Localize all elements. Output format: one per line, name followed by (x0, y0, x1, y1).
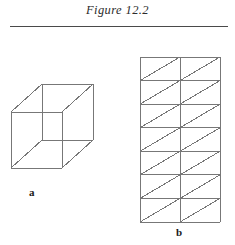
grid-cell-diagonal (180, 81, 220, 105)
part-label-b: b (176, 226, 182, 238)
box-edge-depth-bottom-left (11, 140, 42, 168)
grid-cell-diagonal (180, 104, 220, 128)
grid-diagram-b (140, 57, 220, 222)
figure-illustration (0, 0, 235, 245)
grid-cell-diagonal (140, 104, 180, 128)
box-edge-depth-top-left (11, 84, 42, 112)
figure-page: Figure 12.2 a b (0, 0, 235, 245)
grid-cell-diagonal (140, 151, 180, 175)
grid-cell-diagonal (180, 151, 220, 175)
grid-cell-diagonal (180, 57, 220, 81)
grid-cell-diagonal (140, 81, 180, 105)
box-edge-depth-bottom-right (62, 140, 93, 168)
grid-cell-diagonal (180, 198, 220, 222)
grid-cell-diagonal (140, 175, 180, 199)
grid-cell-diagonal (140, 57, 180, 81)
grid-cell-diagonal (180, 175, 220, 199)
grid-cell-diagonal (140, 128, 180, 152)
box-edge-depth-top-right (62, 84, 93, 112)
part-label-a: a (29, 186, 35, 198)
grid-cell-diagonal (180, 128, 220, 152)
grid-cell-diagonal (140, 198, 180, 222)
box-diagram-a (11, 84, 93, 168)
